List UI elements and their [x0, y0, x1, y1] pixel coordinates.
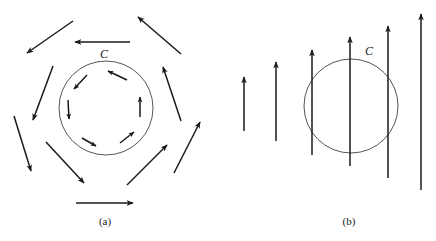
- field-arrow-icon: [27, 21, 73, 53]
- field-arrow-icon: [138, 17, 181, 54]
- curve-label: C: [365, 44, 374, 58]
- panel-b-shear-field: C (b): [244, 14, 421, 228]
- field-arrow-icon: [82, 138, 96, 146]
- inner-arrows-group: [68, 71, 140, 146]
- panel-caption: (b): [343, 215, 356, 228]
- field-arrow-icon: [108, 71, 127, 80]
- field-arrow-icon: [46, 142, 84, 183]
- outer-arrows-group: [14, 17, 200, 203]
- field-arrow-icon: [127, 145, 167, 185]
- panel-caption: (a): [99, 215, 112, 228]
- panel-a-rotational-field: C (a): [14, 17, 200, 228]
- curve-c-circle: [304, 59, 398, 153]
- field-arrow-icon: [163, 67, 181, 121]
- field-arrow-icon: [174, 122, 200, 173]
- vertical-arrows-group: [244, 14, 421, 190]
- field-arrow-icon: [74, 75, 87, 89]
- field-arrow-icon: [14, 116, 31, 171]
- vector-field-figure: C (a) C (b): [0, 0, 436, 241]
- field-arrow-icon: [68, 100, 69, 119]
- curve-c-circle: [59, 61, 153, 155]
- field-arrow-icon: [33, 66, 53, 120]
- curve-label: C: [100, 47, 109, 61]
- field-arrow-icon: [120, 132, 134, 143]
